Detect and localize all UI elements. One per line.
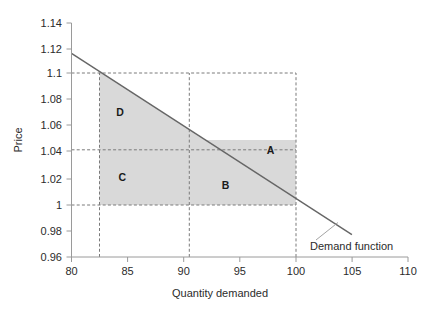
- x-axis-title: Quantity demanded: [172, 287, 268, 299]
- y-tick-label-108: 1.08: [41, 93, 62, 105]
- y-tick-label-106: 1.06: [41, 119, 62, 131]
- x-tick-label-80: 80: [65, 265, 77, 277]
- y-tick-label-102: 1.02: [41, 173, 62, 185]
- chart-canvas: 1.14 1.12 1.1 1.08 1.06 1.04 1.02 1 0.98…: [0, 0, 435, 313]
- y-tick-label-112: 1.12: [41, 43, 62, 55]
- y-tick-label-104: 1.04: [41, 145, 62, 157]
- y-tick-label-100: 1: [56, 199, 62, 211]
- x-tick-label-85: 85: [121, 265, 133, 277]
- y-tick-label-098: 0.98: [41, 225, 62, 237]
- y-axis-title: Price: [12, 127, 24, 152]
- region-label-a: A: [267, 144, 275, 156]
- x-tick-label-105: 105: [343, 265, 361, 277]
- demand-function-label: Demand function: [310, 240, 393, 252]
- demand-curve-chart: 1.14 1.12 1.1 1.08 1.06 1.04 1.02 1 0.98…: [0, 0, 435, 313]
- region-label-d: D: [116, 106, 124, 118]
- x-tick-label-90: 90: [178, 265, 190, 277]
- y-tick-label-110: 1.1: [47, 67, 62, 79]
- x-tick-label-95: 95: [234, 265, 246, 277]
- region-label-b: B: [222, 179, 230, 191]
- y-tick-label-096: 0.96: [41, 251, 62, 263]
- x-tick-label-110: 110: [399, 265, 417, 277]
- y-tick-label-114: 1.14: [41, 17, 62, 29]
- x-tick-label-100: 100: [287, 265, 305, 277]
- region-label-c: C: [119, 171, 127, 183]
